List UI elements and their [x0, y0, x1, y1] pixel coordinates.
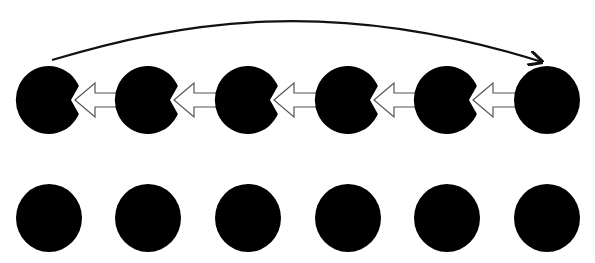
top-row-node-4 [315, 66, 378, 134]
bottom-row-node-6 [514, 184, 580, 252]
top-row-node-3 [215, 66, 278, 134]
bottom-row-node-4 [315, 184, 381, 252]
top-row-node-1 [16, 66, 79, 134]
circle-chain-diagram [0, 0, 595, 263]
bottom-row-node-1 [16, 184, 82, 252]
bottom-row-node-2 [115, 184, 181, 252]
curved-arrow-first-to-last [52, 21, 542, 62]
bottom-row-node-3 [215, 184, 281, 252]
top-row-node-2 [115, 66, 178, 134]
bottom-row-node-5 [414, 184, 480, 252]
top-row-node-6 [514, 66, 580, 134]
bottom-row-nodes [16, 184, 580, 252]
top-row-node-5 [414, 66, 477, 134]
